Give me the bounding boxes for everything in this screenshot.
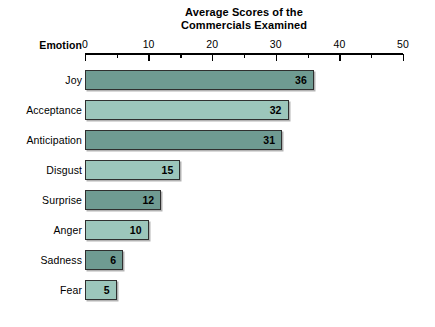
bar-row: Surprise12 bbox=[0, 190, 435, 220]
value-axis-tick-label: 0 bbox=[73, 38, 97, 50]
bar-category-label: Sadness bbox=[0, 250, 82, 270]
value-axis-tick-label: 30 bbox=[264, 38, 288, 50]
value-axis-tick-label: 50 bbox=[391, 38, 415, 50]
chart-title-line-1: Average Scores of the bbox=[85, 6, 403, 19]
bar-value-label: 12 bbox=[142, 191, 154, 209]
bar-row: Joy36 bbox=[0, 70, 435, 100]
value-axis-tick-label: 40 bbox=[327, 38, 351, 50]
bar-row: Acceptance32 bbox=[0, 100, 435, 130]
chart-title-line-2: Commercials Examined bbox=[85, 19, 403, 32]
bar-category-label: Surprise bbox=[0, 190, 82, 210]
bar-category-label: Disgust bbox=[0, 160, 82, 180]
value-axis-line bbox=[80, 53, 410, 65]
category-axis-label: Emotion bbox=[0, 39, 82, 51]
bar-category-label: Anger bbox=[0, 220, 82, 240]
bar-category-label: Fear bbox=[0, 280, 82, 300]
plot-area: Joy36Acceptance32Anticipation31Disgust15… bbox=[0, 70, 435, 310]
bar-chart: Average Scores of the Commercials Examin… bbox=[0, 0, 435, 327]
bar-value-label: 32 bbox=[270, 101, 282, 119]
chart-title: Average Scores of the Commercials Examin… bbox=[85, 6, 403, 31]
bar[interactable]: 36 bbox=[85, 70, 314, 90]
value-axis-tick-label: 20 bbox=[200, 38, 224, 50]
bar[interactable]: 12 bbox=[85, 190, 161, 210]
value-axis-tick-labels: 01020304050 bbox=[85, 38, 403, 52]
bar[interactable]: 31 bbox=[85, 130, 282, 150]
bar-row: Anticipation31 bbox=[0, 130, 435, 160]
bar[interactable]: 15 bbox=[85, 160, 180, 180]
bar-row: Disgust15 bbox=[0, 160, 435, 190]
bar-row: Sadness6 bbox=[0, 250, 435, 280]
bar-value-label: 36 bbox=[295, 71, 307, 89]
bar-category-label: Acceptance bbox=[0, 100, 82, 120]
bar-value-label: 6 bbox=[110, 251, 116, 269]
bar[interactable]: 5 bbox=[85, 280, 117, 300]
value-axis-tick-label: 10 bbox=[137, 38, 161, 50]
bar[interactable]: 6 bbox=[85, 250, 123, 270]
bar-row: Fear5 bbox=[0, 280, 435, 310]
bar-value-label: 5 bbox=[104, 281, 110, 299]
bar[interactable]: 10 bbox=[85, 220, 149, 240]
bar[interactable]: 32 bbox=[85, 100, 289, 120]
bar-row: Anger10 bbox=[0, 220, 435, 250]
bar-value-label: 31 bbox=[263, 131, 275, 149]
bar-category-label: Anticipation bbox=[0, 130, 82, 150]
bar-category-label: Joy bbox=[0, 70, 82, 90]
bar-value-label: 15 bbox=[162, 161, 174, 179]
bar-value-label: 10 bbox=[130, 221, 142, 239]
